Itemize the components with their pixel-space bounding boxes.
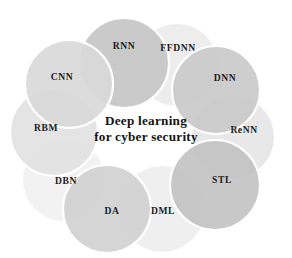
venn-diagram-canvas: RNN FFDNN DNN ReNN STL DML DA DBN RBM CN… <box>0 0 292 258</box>
node-label-da: DA <box>105 205 120 216</box>
node-circle-cnn[interactable] <box>25 40 113 128</box>
node-label-renn: ReNN <box>230 124 257 135</box>
node-label-cnn: CNN <box>51 71 73 82</box>
center-title-line-1: Deep learning <box>105 113 187 128</box>
node-label-dml: DML <box>151 205 175 216</box>
node-label-rnn: RNN <box>113 40 135 51</box>
node-label-ffdnn: FFDNN <box>160 42 195 53</box>
center-title-group: Deep learning for cyber security <box>94 113 198 144</box>
node-label-rbm: RBM <box>34 122 58 133</box>
node-label-dbn: DBN <box>55 175 77 186</box>
center-title-line-2: for cyber security <box>94 129 198 144</box>
deep-learning-venn-diagram: RNN FFDNN DNN ReNN STL DML DA DBN RBM CN… <box>0 0 292 258</box>
node-label-stl: STL <box>212 174 232 185</box>
node-label-dnn: DNN <box>214 72 236 83</box>
